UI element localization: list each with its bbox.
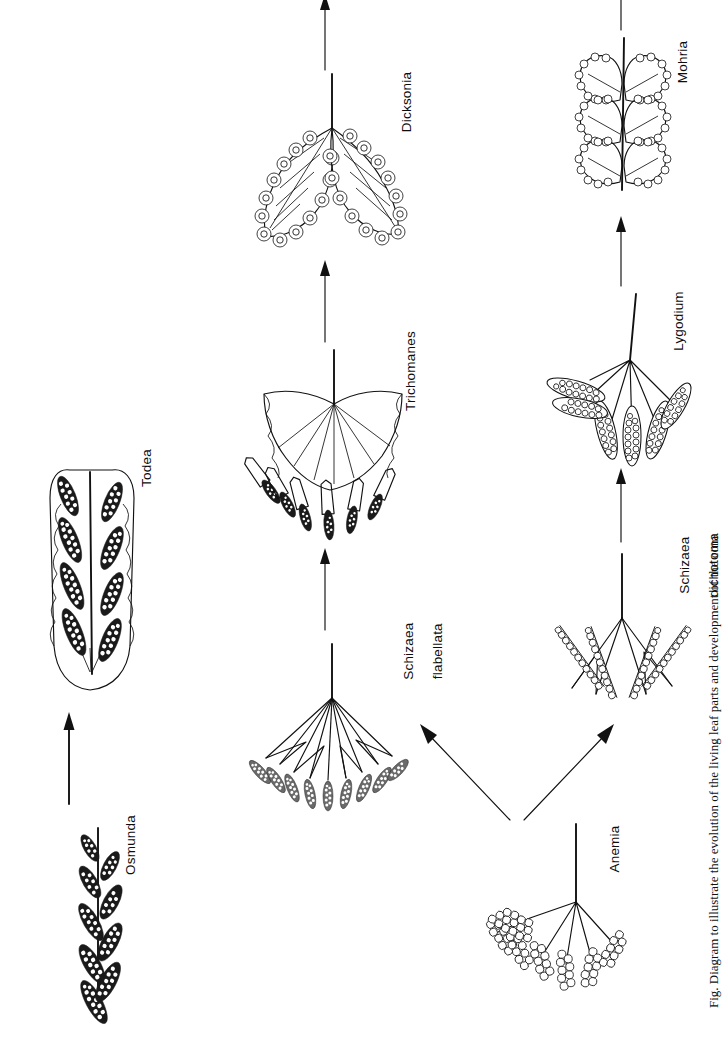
label-schizaea-flabellata: Schizaea flabellata bbox=[388, 612, 459, 722]
figure-page: Osmunda bbox=[0, 0, 726, 1044]
specimen-schizaea-flabellata: Schizaea flabellata bbox=[236, 642, 420, 830]
dicksonia-drawing bbox=[240, 72, 420, 258]
label-schizaea-flabellata-line2: flabellata bbox=[430, 623, 445, 679]
specimen-lygodium: Lygodium bbox=[540, 292, 700, 464]
label-mohria: Mohria bbox=[676, 22, 691, 102]
label-trichomanes: Trichomanes bbox=[404, 316, 419, 426]
specimen-schizaea-dichotoma: Schizaea dichotoma bbox=[546, 552, 698, 728]
label-todea: Todea bbox=[140, 438, 155, 498]
specimen-dicksonia: Dicksonia bbox=[240, 72, 420, 258]
arrow-schizaea-flabellata-to-trichomanes bbox=[312, 546, 338, 632]
label-schizaea-flabellata-line1: Schizaea bbox=[401, 623, 416, 680]
arrow-lygodium-to-mohria bbox=[608, 214, 634, 288]
specimen-todea: Todea bbox=[24, 454, 164, 704]
arrow-anemia-to-schizaea-dichotoma bbox=[516, 718, 626, 828]
specimen-anemia: Anemia bbox=[480, 822, 640, 1022]
arrow-anemia-to-schizaea-flabellata bbox=[408, 718, 518, 828]
specimen-mohria: Mohria bbox=[548, 36, 698, 212]
specimen-trichomanes: Trichomanes bbox=[234, 348, 424, 544]
figure-caption: Fig. Diagram to illustrate the evolution… bbox=[706, 536, 722, 1008]
diagram-canvas: Osmunda bbox=[0, 0, 726, 1044]
label-osmunda: Osmunda bbox=[124, 810, 139, 880]
label-lygodium: Lygodium bbox=[672, 276, 687, 366]
trichomanes-drawing bbox=[234, 348, 424, 544]
arrow-osmunda-to-todea bbox=[56, 710, 82, 806]
arrow-dicksonia-to-microlepia bbox=[312, 0, 338, 72]
label-dicksonia: Dicksonia bbox=[400, 52, 415, 152]
label-schizaea-dichotoma-line1: Schizaea bbox=[677, 537, 692, 594]
arrow-schizaea-dichotoma-to-lygodium bbox=[608, 466, 634, 544]
specimen-osmunda: Osmunda bbox=[36, 816, 156, 1026]
arrow-mohria-to-gleichenia-1 bbox=[608, 0, 634, 32]
arrow-trichomanes-to-dicksonia bbox=[312, 258, 338, 344]
